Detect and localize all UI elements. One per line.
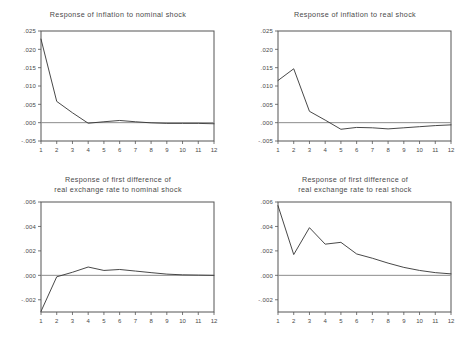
y-tick-label: -.005	[258, 138, 273, 144]
x-tick-label: 6	[118, 147, 122, 153]
x-tick-label: 12	[448, 147, 455, 153]
plot-area-rer-real: -.002.000.002.004.006123456789101112	[237, 171, 473, 342]
x-tick-label: 12	[211, 318, 218, 324]
plot-frame	[41, 31, 214, 141]
y-tick-label: .000	[261, 273, 274, 279]
plot-frame	[278, 202, 451, 312]
y-tick-label: .015	[24, 65, 37, 71]
x-tick-label: 3	[308, 318, 312, 324]
x-tick-label: 6	[355, 147, 359, 153]
x-tick-label: 2	[55, 318, 59, 324]
x-tick-label: 11	[195, 147, 202, 153]
x-tick-label: 4	[87, 318, 91, 324]
y-tick-label: .020	[261, 47, 274, 53]
plot-area-inflation-real: -.005.000.005.010.015.020.02512345678910…	[237, 0, 473, 171]
y-tick-label: .010	[261, 83, 274, 89]
x-tick-label: 5	[102, 147, 106, 153]
impulse-response-line	[41, 39, 214, 124]
x-tick-label: 1	[276, 147, 280, 153]
x-tick-label: 3	[71, 318, 75, 324]
chart-panel-rer-real: Response of first difference of real exc…	[237, 171, 473, 342]
y-tick-label: .002	[261, 248, 274, 254]
plot-frame	[41, 202, 214, 312]
x-tick-label: 9	[165, 147, 169, 153]
x-tick-label: 9	[402, 147, 406, 153]
x-tick-label: 9	[402, 318, 406, 324]
y-tick-label: .000	[261, 120, 274, 126]
y-tick-label: .015	[261, 65, 274, 71]
x-tick-label: 10	[416, 318, 423, 324]
y-tick-label: .010	[24, 83, 37, 89]
impulse-response-line	[41, 267, 214, 311]
x-tick-label: 5	[339, 318, 343, 324]
y-tick-label: .002	[24, 248, 37, 254]
x-tick-label: 12	[211, 147, 218, 153]
x-tick-label: 10	[179, 147, 186, 153]
y-tick-label: .025	[24, 28, 37, 34]
y-tick-label: .006	[261, 199, 274, 205]
y-tick-label: .020	[24, 47, 37, 53]
x-tick-label: 7	[371, 318, 375, 324]
y-tick-label: .004	[24, 224, 37, 230]
chart-panel-inflation-nominal: Response of inflation to nominal shock -…	[0, 0, 236, 171]
x-tick-label: 11	[432, 147, 439, 153]
x-tick-label: 10	[179, 318, 186, 324]
x-tick-label: 8	[149, 147, 153, 153]
y-tick-label: .025	[261, 28, 274, 34]
y-tick-label: .004	[261, 224, 274, 230]
impulse-response-line	[278, 69, 451, 130]
x-tick-label: 10	[416, 147, 423, 153]
x-tick-label: 8	[386, 318, 390, 324]
y-tick-label: .000	[24, 120, 37, 126]
y-tick-label: .005	[24, 102, 37, 108]
x-tick-label: 11	[195, 318, 202, 324]
impulse-response-line	[278, 206, 451, 274]
x-tick-label: 8	[386, 147, 390, 153]
x-tick-label: 4	[87, 147, 91, 153]
x-tick-label: 5	[102, 318, 106, 324]
y-tick-label: .005	[261, 102, 274, 108]
x-tick-label: 2	[55, 147, 59, 153]
x-tick-label: 6	[355, 318, 359, 324]
x-tick-label: 3	[71, 147, 75, 153]
y-tick-label: .000	[24, 273, 37, 279]
x-tick-label: 5	[339, 147, 343, 153]
x-tick-label: 2	[292, 318, 296, 324]
x-tick-label: 7	[134, 318, 138, 324]
chart-panel-inflation-real: Response of inflation to real shock -.00…	[237, 0, 473, 171]
x-tick-label: 1	[39, 318, 43, 324]
y-tick-label: -.002	[21, 297, 36, 303]
x-tick-label: 11	[432, 318, 439, 324]
plot-frame	[278, 31, 451, 141]
x-tick-label: 7	[371, 147, 375, 153]
y-tick-label: -.005	[21, 138, 36, 144]
x-tick-label: 1	[39, 147, 43, 153]
plot-area-rer-nominal: -.002.000.002.004.006123456789101112	[0, 171, 236, 342]
chart-panel-rer-nominal: Response of first difference of real exc…	[0, 171, 236, 342]
x-tick-label: 1	[276, 318, 280, 324]
x-tick-label: 12	[448, 318, 455, 324]
x-tick-label: 7	[134, 147, 138, 153]
plot-area-inflation-nominal: -.005.000.005.010.015.020.02512345678910…	[0, 0, 236, 171]
x-tick-label: 9	[165, 318, 169, 324]
x-tick-label: 8	[149, 318, 153, 324]
x-tick-label: 2	[292, 147, 296, 153]
x-tick-label: 4	[324, 147, 328, 153]
impulse-response-figure: Response of inflation to nominal shock -…	[0, 0, 473, 342]
y-tick-label: -.002	[258, 297, 273, 303]
x-tick-label: 6	[118, 318, 122, 324]
y-tick-label: .006	[24, 199, 37, 205]
x-tick-label: 4	[324, 318, 328, 324]
x-tick-label: 3	[308, 147, 312, 153]
